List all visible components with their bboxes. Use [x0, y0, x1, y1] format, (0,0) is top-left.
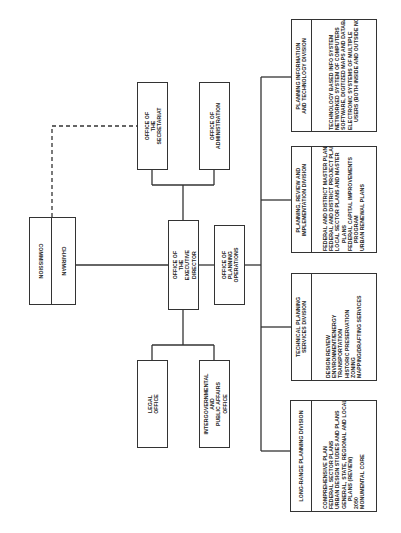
division-items: DESIGN REVIEW ENVIRONMENT/ENERGY TRANSPO…: [325, 276, 362, 378]
division-item: TRANSPORTATION: [338, 276, 344, 378]
division-item: PROGRAM: [353, 149, 359, 251]
intergovernmental-office-label: INTERGOVERNMENTAL AND PUBLIC AFFAIRS OFF…: [202, 374, 227, 435]
office-administration-label: OFFICE OF ADMINISTRATION: [208, 103, 220, 149]
division-item: ELECTRONIC SYSTEMS OF MULTIPLE: [347, 22, 353, 130]
division-item: FEDERAL CAPITAL IMPROVEMENTS: [347, 149, 353, 251]
office-executive-director-label: OFFICE OF THE EXECUTIVE DIRECTOR: [171, 250, 196, 280]
division-item: ZONING: [350, 276, 356, 378]
division-item: SOFTWARE, DIGITIZED MAPS AND DATABASES: [341, 22, 347, 130]
division-item: URBAN RENEWAL PLANS: [359, 149, 365, 251]
office-executive-director-box: OFFICE OF THE EXECUTIVE DIRECTOR: [168, 220, 199, 310]
division-items-cell: DESIGN REVIEW ENVIRONMENT/ENERGY TRANSPO…: [312, 274, 376, 380]
division-items-cell: COMPREHENSIVE PLAN FEDERAL SECTOR PLANS …: [312, 401, 376, 511]
legal-office-box: LEGAL OFFICE: [137, 360, 168, 448]
division-item: MAPPING/DRAFTING SERVICES: [356, 276, 362, 378]
division-item: HISTORIC PRESERVATION: [344, 276, 350, 378]
division-item: FEDERAL SECTOR PLANS: [328, 403, 334, 509]
commission-chairman-box: COMMISSION CHAIRMAN: [29, 217, 76, 305]
division-item: TECHNOLOGY BASED INFO SYSTEM: [328, 22, 334, 130]
division-items-cell: FEDERAL AND DISTRICT MASTER PLANS FEDERA…: [312, 147, 376, 252]
dashed-advisory-line: [52, 126, 137, 217]
legal-office-label: LEGAL OFFICE: [146, 394, 158, 414]
division-item: COMPREHENSIVE PLAN: [322, 403, 328, 509]
division-item: PLANS: [341, 149, 347, 251]
division-title: PLANNING, REVIEW AND IMPLEMENTATION DIVI…: [295, 148, 307, 252]
division-items: FEDERAL AND DISTRICT MASTER PLANS FEDERA…: [322, 149, 365, 251]
division-title-cell: PLANNING INFORMATION AND TECHNOLOGY DIVI…: [292, 20, 312, 131]
division-item: DESIGN REVIEW: [325, 276, 331, 378]
division-item: 2050: [353, 403, 359, 509]
office-secretariat-label: OFFICE OF THE SECRETARIAT: [143, 107, 162, 144]
division-item: NETWORKED SYSTEM OF COMPUTERS: [334, 22, 340, 130]
division-long-range-planning-box: LONG-RANGE PLANNING DIVISION COMPREHENSI…: [290, 400, 377, 512]
division-items: COMPREHENSIVE PLAN FEDERAL SECTOR PLANS …: [322, 403, 365, 509]
division-items-cell: TECHNOLOGY BASED INFO SYSTEM NETWORKED S…: [312, 20, 376, 131]
office-planning-operations-label: OFFICE OF PLANNING OPERATIONS: [220, 248, 239, 283]
division-title-cell: TECHNICAL PLANNING SERVICES DIVISION: [292, 274, 312, 380]
commission-cell: COMMISSION: [30, 218, 52, 304]
division-items: TECHNOLOGY BASED INFO SYSTEM NETWORKED S…: [328, 22, 359, 130]
division-title-cell: PLANNING, REVIEW AND IMPLEMENTATION DIVI…: [292, 147, 312, 252]
division-item: FEDERAL AND DISTRICT MASTER PLANS: [322, 149, 328, 251]
division-item: URBAN DESIGN STUDIES AND PLANS: [334, 403, 340, 509]
chairman-label: CHAIRMAN: [60, 246, 66, 275]
intergovernmental-office-box: INTERGOVERNMENTAL AND PUBLIC AFFAIRS OFF…: [199, 360, 230, 448]
office-administration-box: OFFICE OF ADMINISTRATION: [199, 82, 230, 170]
office-secretariat-box: OFFICE OF THE SECRETARIAT: [137, 82, 168, 170]
division-title: PLANNING INFORMATION AND TECHNOLOGY DIVI…: [295, 21, 307, 131]
division-item: USERS (BOTH INSIDE AND OUTSIDE NCPC): [353, 22, 359, 130]
division-item: PLANS (REVIEW): [347, 403, 353, 509]
division-item: FEDERAL AND DISTRICT PROJECT PLANS: [328, 149, 334, 251]
division-title-cell: LONG-RANGE PLANNING DIVISION: [291, 401, 312, 511]
org-chart: COMMISSION CHAIRMAN OFFICE OF THE SECRET…: [0, 0, 401, 533]
division-technical-planning-box: TECHNICAL PLANNING SERVICES DIVISION DES…: [291, 273, 377, 381]
division-title: TECHNICAL PLANNING SERVICES DIVISION: [295, 275, 307, 380]
division-title: LONG-RANGE PLANNING DIVISION: [298, 401, 304, 511]
division-item: MONUMENTAL CORE: [359, 403, 365, 509]
division-item: ENVIRONMENT/ENERGY: [331, 276, 337, 378]
commission-label: COMMISSION: [37, 243, 43, 278]
division-planning-review-box: PLANNING, REVIEW AND IMPLEMENTATION DIVI…: [291, 146, 377, 253]
division-planning-information-box: PLANNING INFORMATION AND TECHNOLOGY DIVI…: [291, 19, 377, 132]
division-item: LOCAL SECTOR PLANS AND MASTER: [334, 149, 340, 251]
chairman-cell: CHAIRMAN: [52, 218, 75, 304]
division-item: GENERAL, STATE, REGIONAL AND LOCAL: [341, 403, 347, 509]
office-planning-operations-box: OFFICE OF PLANNING OPERATIONS: [214, 225, 245, 305]
